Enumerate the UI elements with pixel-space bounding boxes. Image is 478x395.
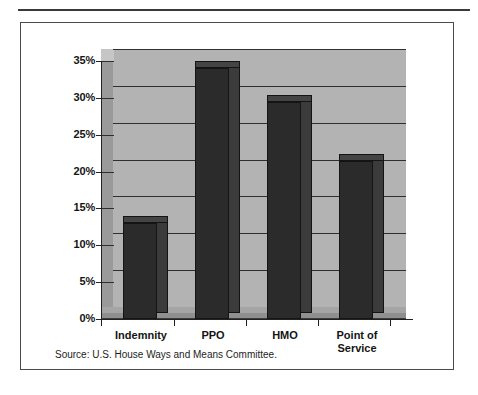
- y-tick-label: 35%: [55, 54, 95, 66]
- x-tick-label: Indemnity: [107, 329, 175, 342]
- bar: [123, 49, 157, 319]
- y-axis-line: [101, 61, 102, 319]
- bar-side-face: [229, 62, 240, 313]
- bar-top-face: [123, 216, 168, 223]
- x-tick-mark: [174, 319, 175, 326]
- x-tick-mark: [246, 319, 247, 326]
- bar: [339, 49, 373, 319]
- gridline-wall-connector: [101, 270, 114, 283]
- bar-top-face: [339, 154, 384, 161]
- x-tick-mark: [390, 319, 391, 326]
- x-tick-label: HMO: [251, 329, 319, 342]
- bar: [267, 49, 301, 319]
- x-tick-mark: [318, 319, 319, 326]
- bar-top-face: [267, 95, 312, 102]
- gridline-wall-connector: [101, 196, 114, 209]
- y-tick-label: 15%: [55, 201, 95, 213]
- y-tick-label: 25%: [55, 128, 95, 140]
- gridline-wall-connector: [101, 160, 114, 173]
- bar-side-face: [157, 217, 168, 313]
- gridline-wall-connector: [101, 86, 114, 99]
- figure-frame: 0%5%10%15%20%25%30%35% IndemnityPPOHMOPo…: [20, 22, 454, 370]
- y-tick-mark: [96, 172, 102, 173]
- source-note: Source: U.S. House Ways and Means Commit…: [55, 349, 277, 360]
- y-tick-mark: [96, 135, 102, 136]
- y-tick-mark: [96, 61, 102, 62]
- top-divider-rule: [18, 9, 470, 11]
- bar-front-face: [267, 102, 301, 319]
- bar-front-face: [195, 68, 229, 319]
- y-tick-mark: [96, 245, 102, 246]
- x-axis-line: [101, 319, 413, 320]
- bar-top-face: [195, 61, 240, 68]
- gridline-wall-connector: [101, 233, 114, 246]
- bar-front-face: [339, 161, 373, 319]
- y-tick-mark: [96, 282, 102, 283]
- chart-plot-area: 0%5%10%15%20%25%30%35% IndemnityPPOHMOPo…: [101, 49, 426, 329]
- bar-side-face: [301, 96, 312, 313]
- bar-side-face: [373, 155, 384, 313]
- x-tick-label: PPO: [179, 329, 247, 342]
- gridline-wall-connector: [101, 49, 114, 62]
- bar-front-face: [123, 223, 157, 319]
- x-tick-label: Point of Service: [323, 329, 391, 355]
- y-tick-label: 10%: [55, 238, 95, 250]
- y-tick-label: 20%: [55, 165, 95, 177]
- bar: [195, 49, 229, 319]
- y-tick-label: 0%: [55, 312, 95, 324]
- gridline-wall-connector: [101, 123, 114, 136]
- y-tick-label: 30%: [55, 91, 95, 103]
- y-tick-mark: [96, 208, 102, 209]
- y-tick-label: 5%: [55, 275, 95, 287]
- y-tick-mark: [96, 98, 102, 99]
- x-tick-mark: [101, 319, 102, 326]
